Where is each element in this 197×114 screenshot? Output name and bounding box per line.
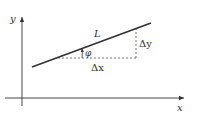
angle-label-phi: φ bbox=[85, 48, 92, 58]
x-axis-label: x bbox=[177, 102, 183, 113]
y-axis-label: y bbox=[9, 13, 16, 24]
dx-label: Δx bbox=[91, 62, 104, 73]
line-segment-L bbox=[32, 23, 151, 67]
line-label-L: L bbox=[93, 28, 101, 39]
dy-label: Δy bbox=[139, 38, 152, 49]
diagram-canvas: y x L φ Δy Δx bbox=[0, 0, 197, 114]
